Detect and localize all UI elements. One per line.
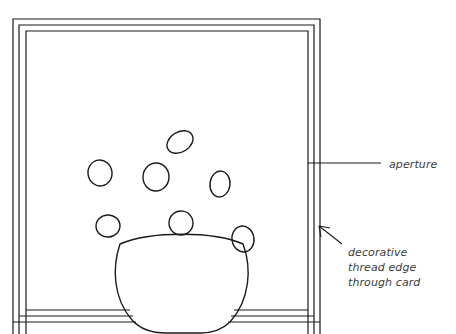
frame-ring-inner	[26, 31, 308, 334]
thread-edge-label-line-1: decorative	[348, 245, 420, 260]
frame-ring-outer	[13, 19, 320, 334]
flower-left	[86, 158, 113, 187]
aperture-label: aperture	[389, 157, 437, 172]
thread-edge-arrow	[319, 226, 342, 244]
flower-middle	[142, 162, 170, 192]
card-mount-frame	[13, 19, 320, 334]
thread-edge-arrow-shaft	[319, 226, 342, 244]
flower-lower-mid	[167, 209, 195, 237]
flower-top	[163, 126, 197, 158]
thread-edge-label: decorative thread edge through card	[348, 245, 420, 290]
flower-lower-left	[95, 214, 120, 238]
vase-bowl	[115, 234, 248, 333]
flower-right	[209, 170, 232, 198]
aperture-label-text: aperture	[389, 157, 437, 172]
thread-edge-label-line-3: through card	[348, 275, 420, 290]
flower-lower-right	[230, 224, 256, 253]
frame-ring-middle	[19, 25, 314, 334]
frame-bottom-rails	[13, 310, 320, 322]
diagram-canvas: aperture decorative thread edge through …	[0, 0, 456, 334]
thread-edge-label-line-2: thread edge	[348, 260, 420, 275]
